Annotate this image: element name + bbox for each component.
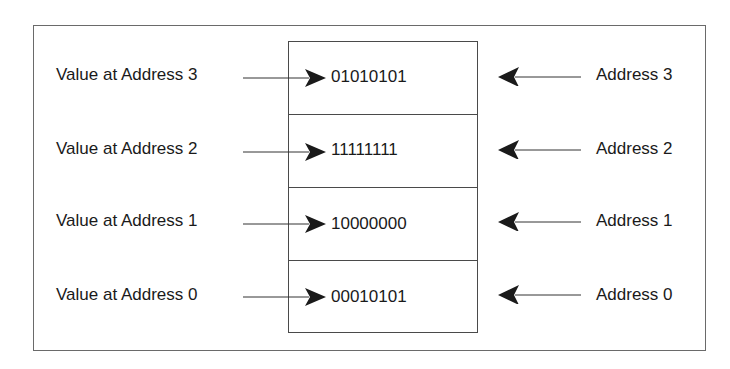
value-label-address-3: Value at Address 3 [56, 65, 197, 85]
cell-value: 00010101 [331, 287, 407, 307]
value-label-address-1: Value at Address 1 [56, 211, 197, 231]
arrow-right-icon [243, 287, 327, 307]
value-label-address-0: Value at Address 0 [56, 285, 197, 305]
arrow-left-icon [497, 284, 581, 304]
arrow-left-icon [497, 139, 581, 159]
value-label-address-2: Value at Address 2 [56, 139, 197, 159]
cell-value: 01010101 [331, 67, 407, 87]
arrow-left-icon [497, 211, 581, 231]
address-label-0: Address 0 [596, 285, 673, 305]
address-label-1: Address 1 [596, 211, 673, 231]
address-label-3: Address 3 [596, 65, 673, 85]
arrow-right-icon [243, 142, 327, 162]
arrow-left-icon [497, 66, 581, 86]
cell-value: 11111111 [331, 140, 398, 160]
arrow-right-icon [243, 68, 327, 88]
arrow-right-icon [243, 214, 327, 234]
address-label-2: Address 2 [596, 139, 673, 159]
cell-value: 10000000 [331, 214, 407, 234]
